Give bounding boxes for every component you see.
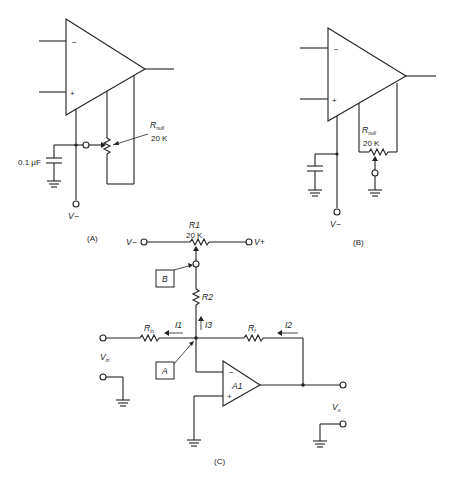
panel-a-vminus-terminal: [73, 201, 79, 207]
panel-b-minus: −: [334, 45, 339, 54]
panel-a-opamp: [66, 19, 145, 115]
panel-c-vplus-label: V+: [254, 237, 265, 247]
panel-c-vminus-label: V−: [126, 237, 137, 247]
panel-c-rin: [140, 335, 159, 341]
panel-b-opamp: [328, 28, 406, 121]
panel-c-r1-label: R1: [189, 220, 200, 230]
panel-c-vo-label: Vo: [332, 402, 341, 413]
panel-c-r2-label: R2: [202, 292, 213, 302]
panel-c-i3-label: I3: [205, 320, 212, 330]
panel-c: R1 20 K V− V+ B R2 I3 Rin: [100, 220, 346, 466]
panel-a-cap-label: 0.1 μF: [18, 158, 41, 167]
panel-a-rnull-value: 20 K: [151, 134, 168, 143]
panel-a-plus: +: [70, 89, 75, 98]
panel-c-vminus-terminal: [141, 239, 147, 245]
panel-b-caption: (B): [353, 238, 364, 247]
panel-c-vo-terminal: [340, 382, 346, 388]
panel-c-i2-label: I2: [285, 320, 292, 330]
panel-c-rin-label: Rin: [144, 323, 154, 334]
panel-c-a1-label: A1: [231, 381, 243, 391]
op-amp-offset-null-diagram: − + V− 0.1 μF Rnull 20 K (A): [0, 0, 456, 479]
svg-text:+: +: [227, 392, 232, 401]
panel-c-vplus-terminal: [246, 239, 252, 245]
panel-b-rnull-value: 20 K: [363, 139, 380, 148]
panel-a-rnull-label: Rnull: [150, 120, 165, 131]
panel-c-r2: [193, 289, 199, 305]
panel-c-vin-label: Vin: [100, 352, 110, 363]
panel-b-vminus-label: V−: [330, 219, 341, 229]
panel-a-caption: (A): [87, 234, 98, 243]
panel-b: − + V− Rnull 20 K (B): [300, 28, 436, 247]
panel-c-rf-label: Rf: [248, 323, 256, 334]
panel-c-node-b-terminal: [193, 261, 199, 267]
panel-b-plus: +: [332, 96, 337, 105]
svg-text:A: A: [161, 366, 168, 376]
panel-c-rf: [244, 335, 263, 341]
svg-text:−: −: [229, 368, 234, 377]
svg-text:B: B: [162, 274, 168, 284]
panel-c-caption: (C): [214, 457, 225, 466]
panel-b-rnull-label: Rnull: [362, 125, 377, 136]
panel-a-minus: −: [72, 38, 77, 47]
panel-c-vin-terminal: [100, 335, 106, 341]
panel-b-vminus-terminal: [334, 209, 340, 215]
panel-b-rnull-pot: [369, 149, 388, 155]
panel-a-vminus-label: V−: [68, 211, 79, 221]
panel-a-rnull-pot: [104, 138, 110, 154]
panel-c-i1-label: I1: [175, 320, 182, 330]
panel-c-r1-value: 20 K: [186, 231, 203, 240]
panel-a: − + V− 0.1 μF Rnull 20 K (A): [18, 19, 174, 243]
